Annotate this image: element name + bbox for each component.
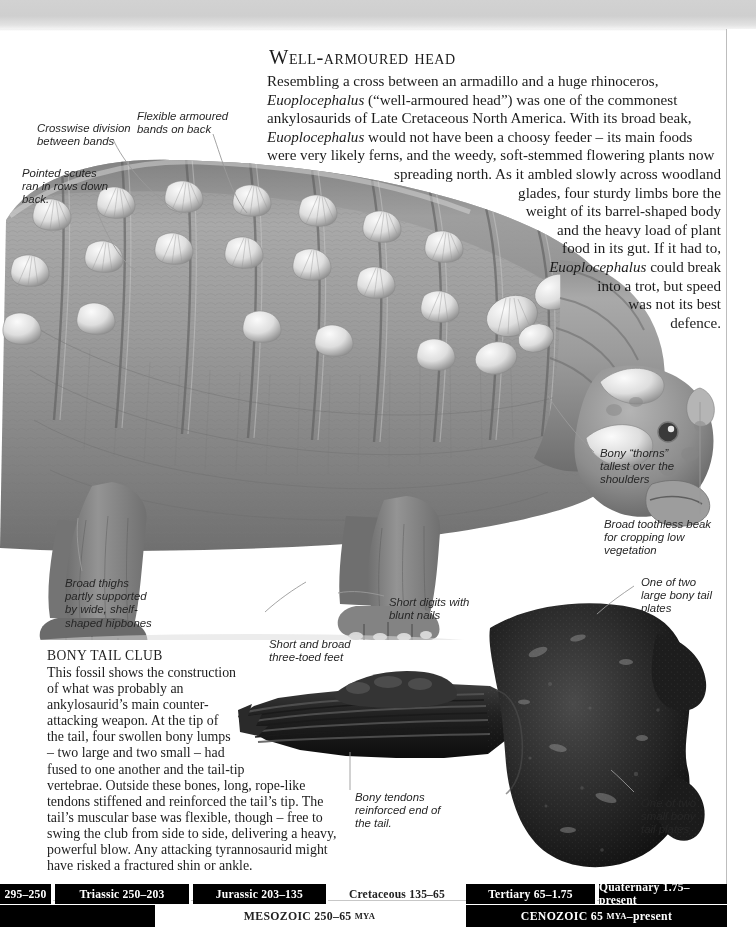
body-line: defence.: [267, 314, 721, 333]
body-line: ankylosaurids of Late Cretaceous North A…: [267, 109, 721, 128]
caption-line: swing the club from side to side, delive…: [47, 826, 347, 842]
caption-line: powerful blow. Any attacking tyrannosaur…: [47, 842, 347, 858]
annotation-line: Crosswise division: [37, 122, 131, 135]
timeline-period-triassic[interactable]: Triassic 250–203: [55, 884, 191, 904]
annotation-line: large bony tail: [641, 589, 712, 602]
fossil-caption-title: BONY TAIL CLUB: [47, 648, 347, 664]
scan-edge-fade: [0, 29, 730, 31]
annotation-line: Short digits with: [389, 596, 469, 609]
annotation-line: tail plates: [641, 823, 696, 836]
annotation-line: One of two: [641, 797, 696, 810]
caption-line: vertebrae. Outside these bones, long, ro…: [47, 778, 347, 794]
caption-line: of what was probably an: [47, 681, 347, 697]
caption-line: attacking weapon. At the tip of: [47, 713, 347, 729]
timeline-era-cenozoic-label: CENOZOIC 65: [521, 909, 603, 924]
annotation-line: the tail.: [355, 817, 441, 830]
body-line: weight of its barrel-shaped body: [267, 202, 721, 221]
annotation-line: Bony tendons: [355, 791, 441, 804]
timeline-period-cretaceous[interactable]: Cretaceous 135–65: [330, 884, 464, 904]
body-line: and the heavy load of plant: [267, 221, 721, 240]
caption-line: the tail, four swollen bony lumps: [47, 729, 347, 745]
timeline-periods-row: 295–250 Triassic 250–203 Jurassic 203–13…: [0, 884, 727, 904]
annotation-line: Flexible armoured: [137, 110, 228, 123]
timeline-era-mesozoic-unit: MYA: [355, 911, 375, 921]
body-line: were very likely ferns, and the weedy, s…: [267, 146, 721, 165]
timeline-period-quaternary[interactable]: Quaternary 1.75–present: [599, 884, 727, 904]
caption-line: fused to one another and the tail-tip: [47, 762, 347, 778]
main-body-text: Resembling a cross between an armadillo …: [267, 72, 721, 332]
annotation-line: tallest over the: [600, 460, 674, 473]
annotation-large-tail-plates: One of two large bony tail plates: [641, 576, 712, 616]
timeline-era-cenozoic[interactable]: CENOZOIC 65 MYA–present: [466, 905, 727, 927]
annotation-toothless-beak: Broad toothless beak for cropping low ve…: [604, 518, 711, 558]
timeline-eras-row: MESOZOIC 250–65 MYA CENOZOIC 65 MYA–pres…: [0, 905, 727, 927]
annotation-line: plates: [641, 602, 712, 615]
timeline-era-cenozoic-unit: MYA: [606, 911, 626, 921]
body-line: Resembling a cross between an armadillo …: [267, 72, 721, 91]
annotation-line: partly supported: [65, 590, 152, 603]
annotation-line: small bony: [641, 810, 696, 823]
annotation-line: ran in rows down: [22, 180, 108, 193]
annotation-line: by wide, shelf-: [65, 603, 152, 616]
annotation-line: shoulders: [600, 473, 674, 486]
timeline-period-jurassic[interactable]: Jurassic 203–135: [193, 884, 328, 904]
annotation-line: Bony “thorns”: [600, 447, 674, 460]
annotation-line: Pointed scutes: [22, 167, 108, 180]
annotation-flexible-bands: Flexible armoured bands on back: [137, 110, 228, 136]
body-line: glades, four sturdy limbs bore the: [267, 184, 721, 203]
annotation-bony-thorns: Bony “thorns” tallest over the shoulders: [600, 447, 674, 487]
annotation-line: shaped hipbones: [65, 617, 152, 630]
annotation-line: blunt nails: [389, 609, 469, 622]
annotation-broad-thighs: Broad thighs partly supported by wide, s…: [65, 577, 152, 630]
annotation-line: between bands: [37, 135, 131, 148]
page-right-margin: [727, 29, 756, 945]
annotation-line: One of two: [641, 576, 712, 589]
caption-line: – two large and two small – had: [47, 745, 347, 761]
caption-line: This fossil shows the construction: [47, 665, 347, 681]
annotation-pointed-scutes: Pointed scutes ran in rows down back.: [22, 167, 108, 207]
body-line: Euoplocephalus could break: [267, 258, 721, 277]
caption-line: tendons stiffened and reinforced the tai…: [47, 794, 347, 810]
annotation-line: vegetation: [604, 544, 711, 557]
caption-line: have risked a fractured shin or ankle.: [47, 858, 347, 874]
timeline-period-tertiary[interactable]: Tertiary 65–1.75: [466, 884, 597, 904]
annotation-line: for cropping low: [604, 531, 711, 544]
fossil-caption-body: This fossil shows the construction of wh…: [47, 665, 347, 874]
annotation-crosswise-division: Crosswise division between bands: [37, 122, 131, 148]
page-title-text: Well-armoured head: [269, 46, 456, 68]
annotation-line: back.: [22, 193, 108, 206]
body-line: food in its gut. If it had to,: [267, 239, 721, 258]
annotation-line: reinforced end of: [355, 804, 441, 817]
timeline-period-permian[interactable]: 295–250: [0, 884, 53, 904]
fossil-caption-block: BONY TAIL CLUB This fossil shows the con…: [47, 648, 347, 874]
timeline-era-blank: [0, 905, 155, 927]
timeline-era-mesozoic-label: MESOZOIC 250–65: [244, 909, 352, 924]
body-line: Euoplocephalus (“well-armoured head”) wa…: [267, 91, 721, 110]
geologic-timeline: 295–250 Triassic 250–203 Jurassic 203–13…: [0, 884, 727, 928]
book-page: Well-armoured head Resembling a cross be…: [0, 0, 756, 945]
page-title: Well-armoured head: [269, 46, 721, 69]
body-line: was not its best: [267, 295, 721, 314]
annotation-line: bands on back: [137, 123, 228, 136]
body-line: spreading north. As it ambled slowly acr…: [267, 165, 721, 184]
body-line: into a trot, but speed: [267, 277, 721, 296]
timeline-era-cenozoic-tail: –present: [627, 909, 672, 924]
timeline-era-mesozoic[interactable]: MESOZOIC 250–65 MYA: [155, 905, 464, 927]
annotation-small-tail-plates: One of two small bony tail plates: [641, 797, 696, 837]
caption-line: ankylosaurid’s main counter-: [47, 697, 347, 713]
scan-edge-band: [0, 0, 756, 29]
annotation-short-digits: Short digits with blunt nails: [389, 596, 469, 622]
caption-line: tail’s muscular base was flexible, thoug…: [47, 810, 347, 826]
annotation-line: Broad toothless beak: [604, 518, 711, 531]
annotation-line: Broad thighs: [65, 577, 152, 590]
annotation-bony-tendons: Bony tendons reinforced end of the tail.: [355, 791, 441, 831]
body-line: Euoplocephalus would not have been a cho…: [267, 128, 721, 147]
